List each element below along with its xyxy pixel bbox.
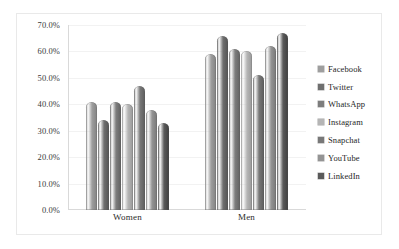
y-axis-tick-label: 20.0% [38,153,60,162]
y-axis-tick-label: 70.0% [38,21,60,30]
bar[interactable] [277,33,288,210]
chart-legend: FacebookTwitterWhatsAppInstagramSnapchat… [318,60,388,185]
y-axis-tick-label: 10.0% [38,179,60,188]
bar[interactable] [158,123,169,210]
bar[interactable] [253,75,264,210]
legend-item-label: Facebook [328,64,362,74]
bar-groups [68,25,306,210]
legend-swatch-icon [318,155,324,161]
legend-item[interactable]: LinkedIn [318,167,388,185]
legend-swatch-icon [318,119,324,125]
bar[interactable] [110,102,121,210]
legend-item[interactable]: Twitter [318,78,388,96]
legend-item-label: YouTube [328,153,360,163]
y-axis-tick-label: 30.0% [38,126,60,135]
x-axis-category-label: Men [187,212,306,222]
x-axis-category-label: Women [68,212,187,222]
legend-item[interactable]: WhatsApp [318,96,388,114]
legend-item-label: Instagram [328,117,363,127]
bar-group [187,25,306,210]
y-axis-tick-label: 60.0% [38,47,60,56]
bar[interactable] [86,102,97,210]
legend-item-label: WhatsApp [328,99,365,109]
legend-swatch-icon [318,66,324,72]
legend-swatch-icon [318,173,324,179]
bar[interactable] [241,51,252,210]
bar[interactable] [205,54,216,210]
legend-item-label: LinkedIn [328,171,360,181]
bar[interactable] [229,49,240,210]
y-axis-tick-label: 40.0% [38,100,60,109]
bar[interactable] [217,36,228,210]
bar[interactable] [98,120,109,210]
legend-swatch-icon [318,84,324,90]
bar[interactable] [134,86,145,210]
bar[interactable] [122,104,133,210]
y-axis-tick-label: 0.0% [42,206,60,215]
chart-container: 0.0%10.0%20.0%30.0%40.0%50.0%60.0%70.0% … [0,0,399,249]
legend-swatch-icon [318,137,324,143]
legend-item[interactable]: Snapchat [318,131,388,149]
plot-area [68,25,306,210]
legend-item-label: Twitter [328,82,353,92]
y-axis-tick-label: 50.0% [38,74,60,83]
x-axis-labels: WomenMen [68,212,306,222]
legend-item[interactable]: Instagram [318,113,388,131]
legend-item-label: Snapchat [328,135,360,145]
bar-group [68,25,187,210]
legend-item[interactable]: Facebook [318,60,388,78]
legend-swatch-icon [318,101,324,107]
bar[interactable] [265,46,276,210]
legend-item[interactable]: YouTube [318,149,388,167]
bar[interactable] [146,110,157,210]
y-axis-labels: 0.0%10.0%20.0%30.0%40.0%50.0%60.0%70.0% [18,25,64,210]
